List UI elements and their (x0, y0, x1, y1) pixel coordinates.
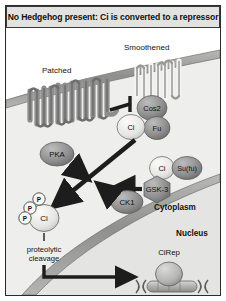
diagram-title-bar: No Hedgehog present: Ci is converted to … (6, 6, 220, 28)
smoothened-label: Smoothened (124, 43, 169, 52)
ck1-kinase[interactable]: CK1 (111, 191, 143, 214)
phosphate-group-2: P (33, 193, 45, 205)
diagram-canvas: Patched Smoothened Cos2 Fu Ci Ci S (6, 28, 220, 295)
nucleus-label: Nucleus (176, 229, 208, 238)
gsk3-label: GSK-3 (146, 185, 169, 194)
pka-label: PKA (49, 150, 65, 159)
ci-sufu-label: Ci (158, 164, 165, 173)
phosphate-label-3: P (23, 215, 28, 222)
pka-kinase[interactable]: PKA (40, 142, 74, 166)
fu-label: Fu (153, 124, 162, 133)
cytoplasm-label: Cytoplasm (154, 203, 196, 212)
ci-complex-label: Ci (127, 123, 134, 132)
diagram-page: No Hedgehog present: Ci is converted to … (0, 0, 226, 301)
phosphate-label-2: P (37, 196, 42, 203)
ck1-label: CK1 (119, 198, 134, 207)
cos2-label: Cos2 (143, 104, 161, 113)
sufu-label: Su(fu) (177, 164, 197, 173)
phosphate-label-1: P (28, 205, 33, 212)
cirep-node (156, 262, 183, 286)
cirep-label: CiRep (158, 248, 180, 257)
cleavage-line-1: proteolytic (27, 245, 62, 254)
cleavage-line-2: cleavage (29, 254, 59, 263)
phosphate-group-3: P (19, 212, 31, 224)
phospho-ci-label: Ci (40, 214, 48, 223)
patched-label: Patched (42, 66, 71, 75)
page-title: No Hedgehog present: Ci is converted to … (8, 12, 219, 22)
